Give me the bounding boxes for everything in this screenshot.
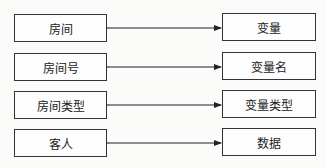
left-box-label: 房间号 bbox=[43, 59, 79, 76]
left-box-label: 房间类型 bbox=[37, 97, 85, 114]
right-box-label: 数据 bbox=[257, 134, 281, 151]
left-box-label: 客人 bbox=[49, 135, 73, 152]
left-box-room-type: 房间类型 bbox=[14, 91, 107, 119]
left-box-guest: 客人 bbox=[14, 129, 107, 157]
left-box-room-number: 房间号 bbox=[14, 53, 107, 81]
right-box-variable-name: 变量名 bbox=[222, 52, 316, 80]
left-box-room: 房间 bbox=[14, 14, 107, 42]
right-box-data: 数据 bbox=[222, 128, 316, 156]
right-box-label: 变量名 bbox=[251, 58, 287, 75]
right-box-label: 变量 bbox=[257, 19, 281, 36]
right-box-label: 变量类型 bbox=[245, 96, 293, 113]
right-box-variable: 变量 bbox=[222, 13, 316, 41]
right-box-variable-type: 变量类型 bbox=[222, 90, 316, 118]
left-box-label: 房间 bbox=[49, 20, 73, 37]
